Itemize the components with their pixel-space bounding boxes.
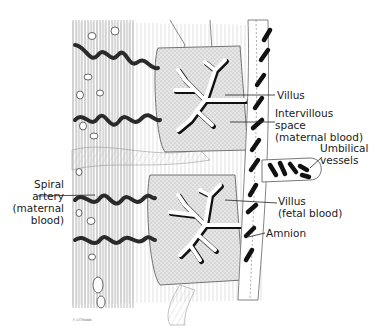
label-spiral-line3: (maternal xyxy=(0,202,64,214)
label-spiral-line2: artery xyxy=(0,190,64,202)
label-umbilical-line2: vessels xyxy=(320,154,368,166)
label-spiral-line1: Spiral xyxy=(0,178,64,190)
label-villus-fetal-line1: Villus xyxy=(278,195,342,207)
label-villus: Villus xyxy=(277,89,305,101)
label-umbilical-vessels: Umbilical vessels xyxy=(320,142,368,166)
amnion-membrane xyxy=(238,20,321,300)
label-villus-fetal-blood: Villus (fetal blood) xyxy=(278,195,342,219)
artist-credit: F. LITTMANN xyxy=(73,318,91,322)
label-amnion: Amnion xyxy=(266,227,306,239)
placenta-illustration xyxy=(0,0,373,331)
label-umbilical-line1: Umbilical xyxy=(320,142,368,154)
label-intervillous-line1: Intervillous xyxy=(275,107,363,119)
label-spiral-artery: Spiral artery (maternal blood) xyxy=(0,178,64,226)
label-villus-fetal-line2: (fetal blood) xyxy=(278,207,342,219)
label-intervillous-line2: space xyxy=(275,119,363,131)
label-intervillous-space: Intervillous space (maternal blood) xyxy=(275,107,363,143)
label-spiral-line4: blood) xyxy=(0,214,64,226)
intervillous-space-lower xyxy=(148,175,243,285)
